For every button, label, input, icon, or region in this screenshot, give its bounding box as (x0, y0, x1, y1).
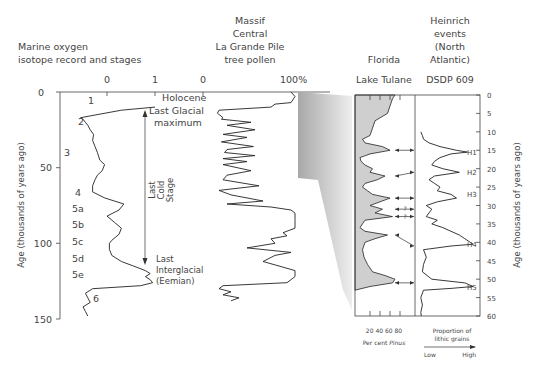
uncertain-mark: ? (403, 205, 406, 212)
arrowhead-right (410, 207, 414, 211)
arrowhead-right (410, 148, 414, 152)
tulane-bottom-ticks: 20 40 60 80 (366, 327, 402, 334)
right-y-axis-label: Age (thousands of years ago) (512, 142, 522, 267)
arrowhead-left (395, 281, 399, 285)
y-tick-100: 100 (34, 238, 52, 249)
arrowhead-left (395, 174, 399, 178)
right-tick-label: 35 (487, 221, 496, 229)
heinrich-event-label: H1 (467, 149, 477, 157)
right-tick-label: 20 (487, 166, 496, 174)
stage-label: 1 (88, 95, 94, 106)
interglacial-label-line2: Interglacial (156, 265, 203, 275)
arrowhead-right (410, 215, 414, 219)
tulane-bottom-label: Per cent Pinus (363, 339, 406, 346)
stage-labels: 12345a5b5c5d5e6 (64, 95, 99, 304)
right-tick-label: 45 (487, 258, 496, 266)
arrowhead-left (395, 148, 399, 152)
high-label: High (462, 351, 476, 359)
lgm-label-line2: maximum (154, 117, 202, 128)
isotope-title-line2: isotope record and stages (18, 54, 141, 65)
heinrich-title-line3: (North (435, 41, 465, 52)
cold-label-line3: Stage (165, 178, 175, 203)
stage-label: 5b (72, 219, 84, 230)
pollen-title-line3: La Grande Pile (216, 41, 285, 52)
lithic-label-line1: Proportion of (433, 327, 473, 335)
right-tick-label: 0 (487, 92, 491, 100)
uncertain-mark: ? (403, 213, 406, 220)
pollen-panel: Massif Central La Grande Pile tree polle… (200, 15, 307, 301)
pollen-title-line4: tree pollen (224, 54, 275, 65)
stage-label: 5c (72, 236, 83, 247)
right-tick-label: 50 (487, 276, 496, 284)
right-tick-label: 25 (487, 184, 496, 192)
holocene-label: Holocene (162, 92, 206, 103)
tulane-title-line1: Florida (368, 54, 400, 65)
heinrich-title-line2: events (434, 28, 466, 39)
pollen-title-line2: Central (233, 28, 268, 39)
stage-label: 5d (72, 253, 84, 264)
y-tick-150: 150 (34, 314, 52, 325)
heinrich-title-line4: Atlantic) (430, 54, 470, 65)
heinrich-event-label: H2 (467, 169, 477, 177)
isotope-title-line1: Marine oxygen (18, 41, 88, 52)
stage-label: 3 (64, 147, 70, 158)
lgm-label-line1: Last Glacial (149, 105, 204, 116)
left-y-axis-label: Age (thousands of years ago) (16, 142, 26, 267)
arrowhead-right (410, 171, 414, 175)
left-y-ticks: 0 50 100 150 (34, 87, 60, 325)
interglacial-label-line3: (Eemian) (156, 276, 194, 286)
heinrich-event-label: H5 (467, 284, 477, 292)
right-tick-label: 55 (487, 295, 496, 303)
correlation-arrows: ?? (395, 148, 414, 284)
y-tick-0: 0 (38, 87, 44, 98)
arrowhead-right (410, 196, 414, 200)
right-axis-ticks: 051015202530354045505560 (476, 92, 496, 321)
right-tick-label: 10 (487, 129, 496, 137)
right-tick-label: 40 (487, 239, 496, 247)
heinrich-event-labels: H1H2H3H4H5 (467, 149, 477, 291)
right-tick-label: 5 (487, 110, 491, 118)
right-tick-label: 15 (487, 147, 496, 155)
arrowhead-right (410, 281, 414, 285)
pinus-text: Pinus (389, 339, 405, 346)
pollen-tick-0: 0 (200, 74, 206, 85)
heinrich-event-label: H3 (467, 191, 477, 199)
arrowhead-left (395, 196, 399, 200)
pollen-curve (217, 92, 295, 301)
zoom-wedge (298, 92, 352, 310)
stage-label: 4 (75, 187, 81, 198)
stage-label: 2 (78, 116, 84, 127)
tulane-title-line2: Lake Tulane (356, 74, 412, 85)
dsdp-curve (421, 132, 473, 316)
right-panels: Florida Lake Tulane Heinrich events (Nor… (355, 15, 522, 359)
stage-label: 5e (72, 269, 84, 280)
isotope-curve (81, 107, 155, 316)
per-cent-text: Per cent (363, 339, 390, 346)
paleoclimate-figure: Marine oxygen isotope record and stages … (0, 0, 535, 375)
correlation-arrow (395, 235, 414, 246)
low-label: Low (424, 351, 436, 358)
tulane-pinus-area (355, 95, 395, 290)
lithic-label-line2: lithic grains (435, 335, 470, 343)
interglacial-label-line1: Last (156, 254, 174, 264)
right-tick-label: 30 (487, 203, 496, 211)
right-tick-label: 60 (487, 313, 496, 321)
pollen-title-line1: Massif (235, 15, 266, 26)
isotope-tick-0: 0 (104, 74, 110, 85)
pollen-tick-100: 100% (280, 74, 307, 85)
arrowhead-left (395, 215, 399, 219)
heinrich-title-line1: Heinrich (430, 15, 469, 26)
heinrich-event-label: H4 (467, 241, 477, 249)
lithic-arrow (424, 345, 476, 349)
isotope-tick-1: 1 (152, 74, 158, 85)
arrowhead-left (395, 207, 399, 211)
y-tick-50: 50 (40, 162, 52, 173)
heinrich-title-line5: DSDP 609 (426, 74, 474, 85)
stage-label: 5a (72, 203, 84, 214)
stage-label: 6 (93, 293, 99, 304)
